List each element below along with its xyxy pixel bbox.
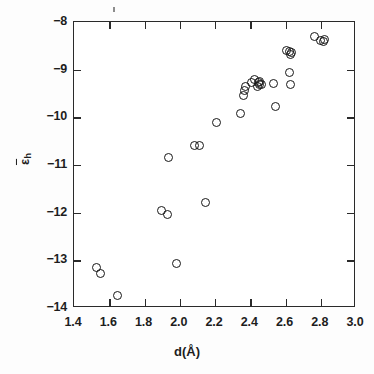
data-point	[172, 259, 181, 268]
x-axis-tick-label: 2.4	[241, 315, 258, 329]
y-axis-tick	[74, 260, 81, 261]
x-axis-tick-top	[180, 22, 181, 29]
y-axis-tick-label: −13	[25, 252, 67, 266]
x-axis-tick-top	[145, 22, 146, 29]
x-axis-tick-label: 2.8	[311, 315, 328, 329]
x-axis-tick-label: 1.6	[100, 315, 117, 329]
data-point	[113, 291, 122, 300]
y-axis-tick-label: −12	[25, 205, 67, 219]
x-axis-tick-label: 2.2	[206, 315, 223, 329]
data-point	[285, 68, 294, 77]
x-axis-title: d(Å)	[0, 344, 374, 359]
y-axis-tick-right	[347, 70, 354, 71]
y-axis-tick-label: −8	[25, 14, 67, 28]
y-axis-tick-right	[347, 117, 354, 118]
x-axis-tick	[286, 299, 287, 306]
y-axis-tick-label: −9	[25, 62, 67, 76]
y-axis-tick-label: −14	[25, 300, 67, 314]
x-axis-tick-label: 2.6	[276, 315, 293, 329]
x-axis-tick	[250, 299, 251, 306]
x-axis-tick	[321, 299, 322, 306]
y-axis-tick-right	[347, 260, 354, 261]
data-point	[201, 198, 210, 207]
x-axis-tick	[109, 299, 110, 306]
x-axis-tick-top	[215, 22, 216, 29]
figure-canvas: εh d(Å) 1.41.61.82.02.22.42.62.83.0−14−1…	[0, 0, 374, 374]
y-axis-tick	[74, 213, 81, 214]
x-axis-tick-label: 1.8	[135, 315, 152, 329]
x-axis-tick-label: 3.0	[347, 315, 364, 329]
x-axis-tick-label: 1.4	[65, 315, 82, 329]
scan-artifact-speck	[113, 7, 115, 12]
y-axis-tick	[74, 117, 81, 118]
y-axis-tick-right	[347, 213, 354, 214]
data-point	[271, 102, 280, 111]
x-axis-tick-top	[109, 22, 110, 29]
x-axis-tick	[215, 299, 216, 306]
data-point	[287, 48, 296, 57]
data-point	[212, 118, 221, 127]
x-axis-tick-top	[286, 22, 287, 29]
x-axis-tick	[180, 299, 181, 306]
x-axis-tick	[145, 299, 146, 306]
data-point	[320, 35, 329, 44]
y-axis-tick-label: −10	[25, 109, 67, 123]
y-axis-tick-label: −11	[25, 157, 67, 171]
y-axis-tick-right	[347, 165, 354, 166]
data-point	[163, 210, 172, 219]
plot-area	[73, 21, 355, 307]
y-axis-tick	[74, 70, 81, 71]
y-axis-tick	[74, 165, 81, 166]
data-point	[257, 80, 266, 89]
x-axis-tick-top	[321, 22, 322, 29]
x-axis-tick-top	[250, 22, 251, 29]
x-axis-tick-label: 2.0	[170, 315, 187, 329]
